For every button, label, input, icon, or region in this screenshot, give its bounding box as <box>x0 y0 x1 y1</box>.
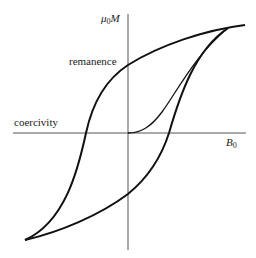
remanence-label: remanence <box>69 56 117 67</box>
initial-magnetization-curve <box>128 28 228 133</box>
coercivity-label: coercivity <box>14 117 58 128</box>
y-axis-label: μ0M <box>101 13 120 26</box>
x-axis-label: B0 <box>226 137 237 150</box>
hysteresis-diagram <box>0 0 256 258</box>
